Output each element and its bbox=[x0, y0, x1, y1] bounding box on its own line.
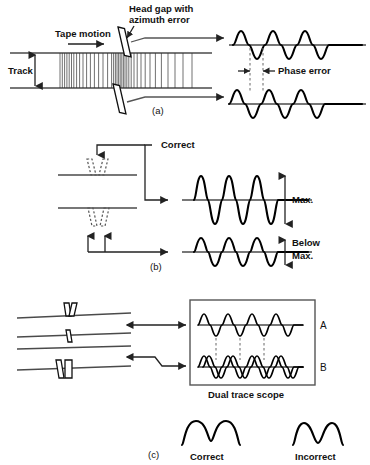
head-gap-label-line2: azimuth error bbox=[129, 14, 190, 25]
gap-c-2a bbox=[66, 330, 72, 342]
panel-b: Correct Max. Below Max. (b) bbox=[58, 139, 321, 272]
lissajous-incorrect bbox=[293, 423, 343, 445]
panel-a-caption: (a) bbox=[152, 105, 164, 116]
panel-b-caption: (b) bbox=[150, 261, 162, 272]
below-max-label: Max. bbox=[292, 250, 313, 261]
correct-down-arrow bbox=[97, 145, 145, 155]
panel-c: A B Dual trace scope Correct Incorrect (… bbox=[17, 300, 343, 462]
gap-b-lower-left bbox=[88, 208, 97, 226]
connector-lower-trace bbox=[127, 97, 224, 102]
track-label: Track bbox=[8, 65, 34, 76]
scope-trace-b-label: B bbox=[320, 362, 327, 373]
track-c-3 bbox=[17, 346, 131, 349]
panel-c-caption: (c) bbox=[148, 449, 159, 460]
gap-c-3b bbox=[65, 360, 72, 378]
connector-c-trace-b bbox=[127, 357, 186, 366]
track-c-2 bbox=[17, 333, 131, 337]
gap-b-upper-right bbox=[99, 159, 108, 175]
connector-upper-trace bbox=[131, 38, 224, 42]
scope-trace-a-label: A bbox=[320, 320, 327, 331]
head-gap-leader bbox=[127, 26, 134, 38]
correct-bracket bbox=[145, 145, 168, 200]
azimuth-error-figure: Head gap with azimuth error Tape motion … bbox=[0, 0, 370, 465]
flux-transition-stripes bbox=[60, 53, 192, 88]
head-gap-label-line1: Head gap with bbox=[129, 3, 194, 14]
gap-c-1b bbox=[69, 303, 77, 316]
track-c-4 bbox=[17, 366, 131, 370]
correct-label-b: Correct bbox=[161, 139, 196, 150]
incorrect-pattern-label: Incorrect bbox=[295, 451, 336, 462]
tape-motion-label: Tape motion bbox=[55, 28, 111, 39]
phase-error-label: Phase error bbox=[278, 65, 331, 76]
dual-trace-scope-label: Dual trace scope bbox=[208, 389, 284, 400]
max-label: Max. bbox=[292, 194, 313, 205]
panel-a: Head gap with azimuth error Tape motion … bbox=[8, 3, 366, 118]
correct-pattern-label: Correct bbox=[190, 451, 225, 462]
gap-b-upper-left bbox=[87, 159, 96, 175]
gap-c-3a bbox=[56, 360, 64, 378]
lissajous-correct bbox=[182, 421, 240, 445]
below-label: Below bbox=[292, 237, 321, 248]
gap-b-lower-right bbox=[100, 208, 109, 226]
figure-root: Head gap with azimuth error Tape motion … bbox=[0, 0, 370, 465]
